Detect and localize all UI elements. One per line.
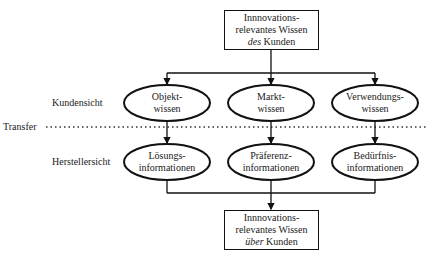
node-objektwissen: Objekt- wissen	[124, 85, 210, 121]
node-praeferenz-line2: informationen	[243, 162, 300, 174]
bottom-box-line3: über Kunden	[245, 236, 298, 248]
node-praeferenzinformationen: Präferenz- informationen	[228, 144, 314, 180]
node-verwendungswissen: Verwendungs- wissen	[332, 85, 418, 121]
label-transfer: Transfer	[3, 121, 37, 133]
top-box-italic: des	[248, 36, 261, 47]
connector-lines	[0, 0, 433, 258]
node-objektwissen-line1: Objekt-	[152, 91, 183, 103]
node-verwendungswissen-line2: wissen	[361, 103, 388, 115]
top-box-line3: des Kunden	[248, 36, 296, 48]
node-loesungsinformationen: Lösungs- informationen	[124, 144, 210, 180]
bottom-box-line2: relevantes Wissen	[236, 224, 308, 236]
node-marktwissen-line1: Markt-	[257, 91, 285, 103]
node-objektwissen-line2: wissen	[153, 103, 180, 115]
node-marktwissen: Markt- wissen	[228, 85, 314, 121]
top-box-wissen-des-kunden: Innnovations- relevantes Wissen des Kund…	[224, 10, 319, 50]
node-verwendungswissen-line1: Verwendungs-	[346, 91, 404, 103]
node-loesungs-line2: informationen	[139, 162, 196, 174]
bottom-box-line3-rest: Kunden	[264, 236, 298, 247]
node-beduerfnisinformationen: Bedürfnis- informationen	[332, 144, 418, 180]
node-loesungs-line1: Lösungs-	[148, 150, 185, 162]
node-marktwissen-line2: wissen	[257, 103, 284, 115]
top-box-line1: Innnovations-	[244, 12, 300, 24]
bottom-box-wissen-ueber-kunden: Innnovations- relevantes Wissen über Kun…	[224, 210, 319, 250]
bottom-box-italic: über	[245, 236, 263, 247]
top-box-line3-rest: Kunden	[261, 36, 295, 47]
bottom-box-line1: Innnovations-	[244, 212, 300, 224]
node-praeferenz-line1: Präferenz-	[250, 150, 292, 162]
label-kundensicht: Kundensicht	[52, 97, 103, 109]
label-herstellersicht: Herstellersicht	[52, 156, 110, 168]
top-box-line2: relevantes Wissen	[236, 24, 308, 36]
node-beduerfnis-line2: informationen	[347, 162, 404, 174]
node-beduerfnis-line1: Bedürfnis-	[354, 150, 397, 162]
